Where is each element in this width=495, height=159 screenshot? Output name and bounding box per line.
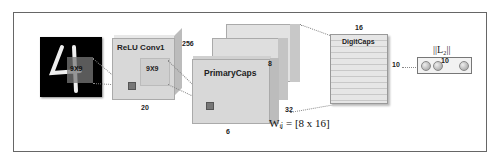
conv1-title: ReLU Conv1 (117, 43, 165, 52)
connector-line (402, 67, 418, 68)
primarycaps-depth-label: 8 (268, 60, 272, 67)
conv1-kernel-label: 9X9 (146, 65, 158, 72)
conv1-width-label: 20 (141, 104, 149, 111)
output-unit (459, 61, 469, 71)
digitcaps-title: DigitCaps (342, 38, 375, 45)
conv1-depth-label: 256 (182, 40, 194, 47)
output-norm-label: ||L₂|| (433, 44, 451, 55)
digitcaps-count-label: 10 (392, 61, 400, 68)
conv1-kernel (140, 58, 170, 86)
output-count-label: 10 (441, 57, 449, 64)
input-kernel-label: 9X9 (70, 65, 82, 72)
primarycaps-title: PrimaryCaps (204, 68, 256, 78)
primarycaps-unit (206, 102, 214, 110)
primarycaps-width-label: 6 (226, 128, 230, 135)
conv1-unit (128, 82, 136, 90)
weight-matrix-formula: Wᵢⱼ = [8 x 16] (269, 117, 330, 130)
digitcaps-dim-label: 16 (355, 24, 363, 31)
output-unit (421, 61, 431, 71)
